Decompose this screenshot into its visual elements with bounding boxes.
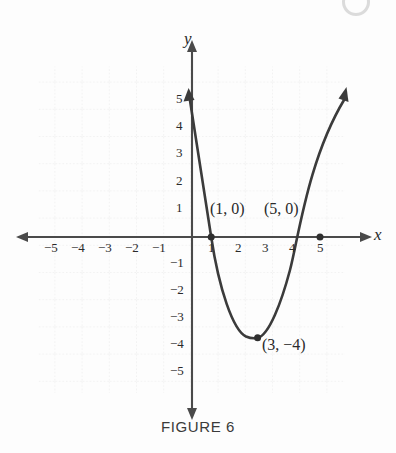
x-tick-label-3: 3 (262, 241, 269, 254)
y-tick-label-3: 3 (176, 146, 183, 159)
x-axis-label: x (374, 226, 382, 243)
y-tick-label-5: 5 (176, 92, 183, 105)
y-tick-label-minus-3: −3 (170, 310, 184, 323)
annotation-vertex: (3, −4) (262, 337, 306, 353)
x-axis-right-arrow (360, 232, 372, 242)
x-tick-label-2: 2 (235, 241, 242, 254)
x-tick-label-5: 5 (317, 241, 324, 254)
figure-container: y x −5 −4 −3 −2 −1 1 2 3 4 5 5 4 3 2 1 −… (0, 0, 396, 453)
annotation-x-intercept-2: (5, 0) (264, 201, 299, 217)
point-vertex (254, 334, 261, 341)
x-axis-left-arrow (16, 232, 28, 242)
y-tick-label-4: 4 (176, 119, 183, 132)
x-tick-label-4: 4 (289, 241, 296, 254)
x-tick-label-minus-3: −3 (98, 241, 112, 254)
parabola-plot (0, 0, 396, 453)
y-tick-label-minus-4: −4 (170, 337, 184, 350)
y-tick-label-minus-5: −5 (170, 364, 184, 377)
x-tick-label-minus-4: −4 (71, 241, 85, 254)
x-tick-label-1: 1 (208, 241, 215, 254)
y-tick-label-minus-2: −2 (170, 283, 184, 296)
x-tick-label-minus-1: −1 (152, 241, 166, 254)
y-axis-label: y (184, 30, 192, 47)
y-tick-label-minus-1: −1 (170, 256, 184, 269)
y-tick-label-2: 2 (176, 174, 183, 187)
x-tick-label-minus-2: −2 (125, 241, 139, 254)
annotation-x-intercept-1: (1, 0) (210, 201, 245, 217)
y-tick-label-1: 1 (176, 201, 183, 214)
x-tick-label-minus-5: −5 (44, 241, 58, 254)
figure-caption: FIGURE 6 (0, 418, 396, 435)
